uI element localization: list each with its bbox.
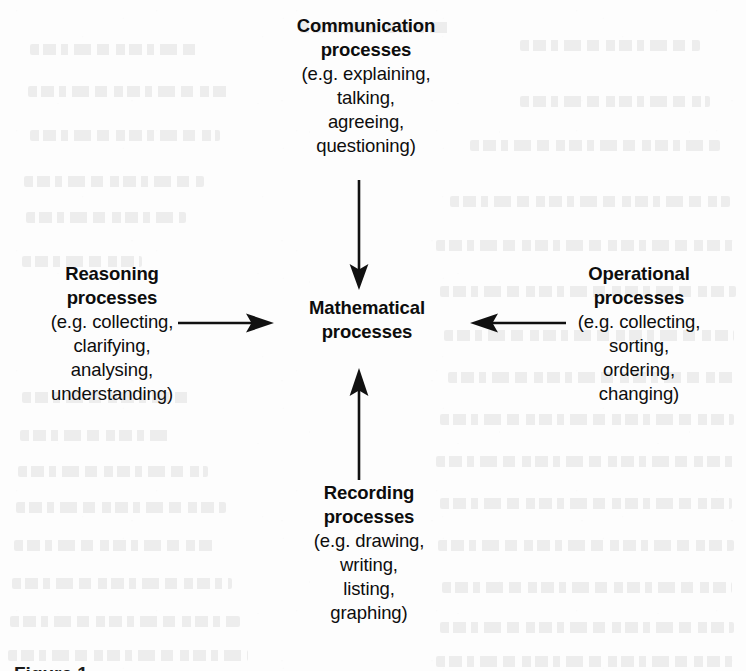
node-mathematical-processes: Mathematical processes: [254, 296, 480, 344]
node-reasoning-heading-line-2: processes: [8, 286, 216, 310]
node-reasoning-heading-line-1: Reasoning: [8, 262, 216, 286]
diagram-page: Communication processes (e.g. explaining…: [0, 0, 746, 671]
node-operational-heading-line-1: Operational: [536, 262, 742, 286]
node-recording-detail-line-4: graphing): [258, 601, 480, 625]
node-recording-detail-line-1: (e.g. drawing,: [258, 529, 480, 553]
node-reasoning-detail-line-3: analysing,: [8, 358, 216, 382]
node-recording-heading-line-2: processes: [258, 505, 480, 529]
node-recording-detail-line-2: writing,: [258, 553, 480, 577]
node-mathematical-heading-line-1: Mathematical: [254, 296, 480, 320]
arrow-up-icon: [346, 368, 372, 480]
node-communication-detail-line-4: questioning): [236, 134, 496, 158]
node-communication-processes: Communication processes (e.g. explaining…: [236, 14, 496, 158]
node-communication-detail-line-3: agreeing,: [236, 110, 496, 134]
node-reasoning-detail-line-2: clarifying,: [8, 334, 216, 358]
node-operational-detail-line-3: ordering,: [536, 358, 742, 382]
node-communication-detail-line-1: (e.g. explaining,: [236, 62, 496, 86]
node-operational-heading-line-2: processes: [536, 286, 742, 310]
node-reasoning-detail-line-4: understanding): [8, 382, 216, 406]
node-communication-heading-line-2: processes: [236, 38, 496, 62]
bottom-cutoff-caption: Figure 1: [14, 664, 88, 671]
arrow-down-icon: [346, 180, 372, 290]
node-operational-detail-line-2: sorting,: [536, 334, 742, 358]
node-mathematical-heading-line-2: processes: [254, 320, 480, 344]
node-operational-detail-line-1: (e.g. collecting,: [536, 310, 742, 334]
node-communication-detail-line-2: talking,: [236, 86, 496, 110]
arrow-left-icon: [470, 310, 566, 336]
node-communication-heading-line-1: Communication: [236, 14, 496, 38]
node-recording-detail-line-3: listing,: [258, 577, 480, 601]
arrow-right-icon: [178, 310, 274, 336]
node-recording-processes: Recording processes (e.g. drawing, writi…: [258, 481, 480, 625]
node-operational-detail-line-4: changing): [536, 382, 742, 406]
node-recording-heading-line-1: Recording: [258, 481, 480, 505]
node-operational-processes: Operational processes (e.g. collecting, …: [536, 262, 742, 406]
